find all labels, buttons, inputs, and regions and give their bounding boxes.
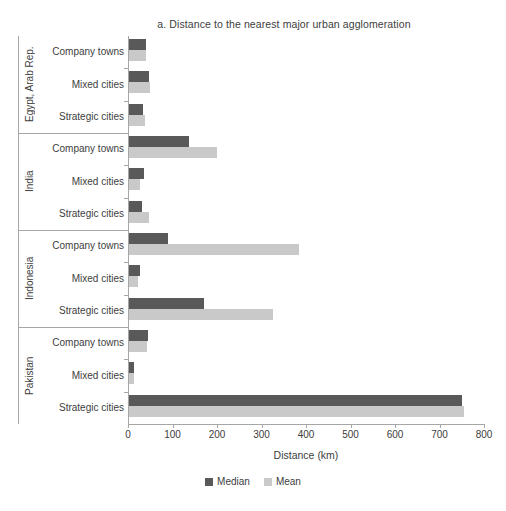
x-axis-tick xyxy=(484,424,485,428)
x-axis-tick-label: 100 xyxy=(153,429,193,440)
bar-median xyxy=(129,136,189,147)
category-label: Mixed cities xyxy=(40,176,124,187)
category-label: Company towns xyxy=(40,46,124,57)
category-tick xyxy=(124,165,128,166)
bar-mean xyxy=(129,115,145,126)
x-axis-tick-label: 300 xyxy=(242,429,282,440)
group-separator xyxy=(18,327,128,328)
category-label: Mixed cities xyxy=(40,79,124,90)
x-axis-tick-label: 0 xyxy=(108,429,148,440)
x-axis-tick xyxy=(306,424,307,428)
category-tick xyxy=(124,230,128,231)
legend-label: Median xyxy=(217,476,250,487)
x-axis-tick-label: 500 xyxy=(331,429,371,440)
x-axis-tick xyxy=(173,424,174,428)
group-separator xyxy=(18,133,128,134)
bar-median xyxy=(129,265,140,276)
legend-swatch-icon xyxy=(205,478,213,486)
bar-mean xyxy=(129,373,134,384)
chart-legend: MedianMean xyxy=(0,476,506,487)
category-label: Strategic cities xyxy=(40,305,124,316)
legend-swatch-icon xyxy=(264,478,272,486)
bar-median xyxy=(129,395,462,406)
category-tick xyxy=(124,101,128,102)
category-label: Strategic cities xyxy=(40,111,124,122)
bar-median xyxy=(129,104,143,115)
category-tick xyxy=(124,198,128,199)
bar-median xyxy=(129,330,148,341)
x-axis-tick-label: 700 xyxy=(420,429,460,440)
x-axis-tick-label: 400 xyxy=(286,429,326,440)
x-axis-title: Distance (km) xyxy=(128,449,484,461)
category-label: Company towns xyxy=(40,240,124,251)
bar-mean xyxy=(129,147,217,158)
bar-median xyxy=(129,362,134,373)
category-tick xyxy=(124,133,128,134)
x-axis-tick xyxy=(440,424,441,428)
legend-item: Median xyxy=(205,476,250,487)
bars-layer xyxy=(129,36,490,424)
category-label: Mixed cities xyxy=(40,370,124,381)
bar-median xyxy=(129,201,142,212)
country-group-label: Indonesia xyxy=(18,230,40,327)
x-axis-tick-label: 600 xyxy=(375,429,415,440)
page-title: a. Distance to the nearest major urban a… xyxy=(0,18,506,30)
x-axis-tick xyxy=(128,424,129,428)
bar-mean xyxy=(129,406,464,417)
category-label: Mixed cities xyxy=(40,273,124,284)
bar-mean xyxy=(129,244,299,255)
x-axis-tick xyxy=(351,424,352,428)
category-label: Company towns xyxy=(40,143,124,154)
category-label: Strategic cities xyxy=(40,208,124,219)
category-label: Strategic cities xyxy=(40,402,124,413)
x-axis-tick xyxy=(262,424,263,428)
bar-median xyxy=(129,298,204,309)
bar-mean xyxy=(129,82,150,93)
country-group-label: Pakistan xyxy=(18,327,40,424)
bar-mean xyxy=(129,309,273,320)
category-tick xyxy=(124,327,128,328)
category-tick xyxy=(124,295,128,296)
bar-mean xyxy=(129,212,149,223)
category-tick xyxy=(124,262,128,263)
x-axis-tick xyxy=(395,424,396,428)
chart-plot-area: Egypt, Arab Rep.IndiaIndonesiaPakistan C… xyxy=(0,36,490,424)
bar-mean xyxy=(129,179,140,190)
bar-mean xyxy=(129,341,147,352)
x-axis-tick xyxy=(217,424,218,428)
country-group-label: Egypt, Arab Rep. xyxy=(18,36,40,133)
bar-mean xyxy=(129,50,146,61)
legend-label: Mean xyxy=(276,476,301,487)
x-axis-tick-label: 200 xyxy=(197,429,237,440)
category-tick xyxy=(124,68,128,69)
bar-median xyxy=(129,71,149,82)
category-tick xyxy=(124,359,128,360)
bar-median xyxy=(129,233,168,244)
category-tick xyxy=(124,392,128,393)
group-separator xyxy=(18,230,128,231)
bar-median xyxy=(129,39,146,50)
x-axis-tick-label: 800 xyxy=(464,429,504,440)
bar-median xyxy=(129,168,144,179)
legend-item: Mean xyxy=(264,476,301,487)
bar-mean xyxy=(129,276,138,287)
category-label: Company towns xyxy=(40,337,124,348)
country-group-label: India xyxy=(18,133,40,230)
